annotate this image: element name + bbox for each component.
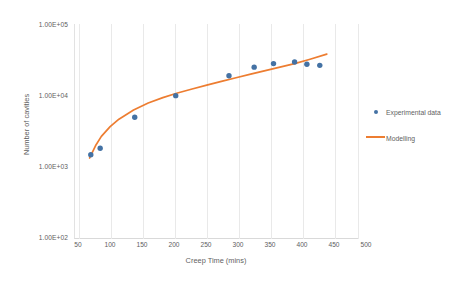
legend-item-modelling[interactable]: Modelling xyxy=(366,134,450,144)
x-axis-tick-label: 200 xyxy=(159,241,189,248)
plot-area xyxy=(74,24,358,239)
data-point xyxy=(304,61,309,66)
y-axis-tick-label: 1.00E+04 xyxy=(4,92,68,99)
data-point xyxy=(97,145,102,150)
data-point xyxy=(173,93,178,98)
data-point xyxy=(317,63,322,68)
data-point xyxy=(226,73,231,78)
x-axis-title: Creep Time (mins) xyxy=(74,256,358,265)
legend-label-experimental-data: Experimental data xyxy=(386,108,441,118)
data-point xyxy=(292,59,297,64)
plot-svg xyxy=(75,24,359,239)
experimental-data-points xyxy=(88,59,322,157)
legend-label-modelling: Modelling xyxy=(386,134,415,144)
y-axis-tick-label: 1.00E+03 xyxy=(4,163,68,170)
legend-item-experimental-data[interactable]: Experimental data xyxy=(366,108,450,118)
data-point xyxy=(251,64,256,69)
x-axis-tick-label: 350 xyxy=(255,241,285,248)
x-axis-tick-label: 400 xyxy=(287,241,317,248)
x-axis-tick-label: 500 xyxy=(351,241,381,248)
x-axis-tick-label: 250 xyxy=(191,241,221,248)
x-axis-tick-label: 100 xyxy=(95,241,125,248)
x-axis-tick-label: 450 xyxy=(319,241,349,248)
data-point xyxy=(271,61,276,66)
y-axis-tick-label: 1.00E+02 xyxy=(4,234,68,241)
chart-container: 1.00E+05 1.00E+04 1.00E+03 1.00E+02 xyxy=(0,0,450,284)
modelling-curve xyxy=(90,54,327,158)
legend-line-icon xyxy=(366,134,386,138)
x-gridlines xyxy=(80,24,359,239)
x-axis-tick-label: 300 xyxy=(223,241,253,248)
legend-dot-icon xyxy=(366,108,386,114)
y-axis-tick-label: 1.00E+05 xyxy=(4,21,68,28)
data-point xyxy=(132,115,137,120)
y-axis-title: Number of cavities xyxy=(22,55,31,195)
x-axis-tick-label: 150 xyxy=(127,241,157,248)
data-point xyxy=(88,152,93,157)
x-axis-tick-label: 50 xyxy=(63,241,93,248)
chart-legend: Experimental data Modelling xyxy=(366,108,450,160)
